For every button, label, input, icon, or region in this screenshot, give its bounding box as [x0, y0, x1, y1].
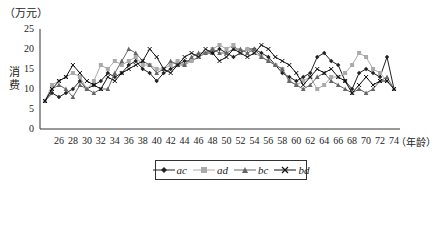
legend-item-bc: bc: [234, 164, 268, 176]
diamond-marker-icon: [153, 166, 175, 174]
legend-label: bd: [298, 164, 309, 176]
series-layer: [43, 43, 397, 103]
legend-item-ac: ac: [153, 164, 187, 176]
x-marker-icon: [274, 166, 296, 174]
legend-item-ad: ad: [193, 164, 228, 176]
legend-label: bc: [258, 164, 268, 176]
legend: ac ad bc bd: [155, 160, 307, 180]
square-marker-icon: [193, 166, 215, 174]
legend-label: ac: [177, 164, 187, 176]
legend-item-bd: bd: [274, 164, 309, 176]
legend-label: ad: [217, 164, 228, 176]
triangle-marker-icon: [234, 166, 256, 174]
